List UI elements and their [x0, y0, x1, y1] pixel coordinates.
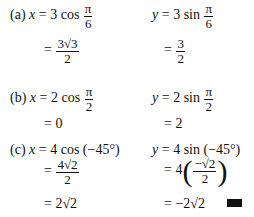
part-a-y-expr: 3 sin	[173, 7, 200, 22]
part-a-x-line: (a) x = 3 cos π6	[10, 2, 93, 30]
part-c-x-step: = 4√22	[44, 158, 80, 186]
part-b-y-line: y = 2 sin π2	[152, 85, 214, 113]
part-a-y-var: y	[152, 7, 158, 22]
part-b-x-line: (b) x = 2 cos π2	[10, 85, 94, 113]
part-c-x-line: (c) x = 4 cos (−45°)	[10, 143, 120, 157]
part-c-label: (c)	[10, 142, 26, 157]
part-a-x-result: = 3√32	[44, 37, 80, 65]
part-c-y-result: = −2√2	[164, 197, 205, 211]
part-a-x-var: x	[29, 7, 35, 22]
part-a-y-result: = 32	[164, 37, 186, 65]
part-b-y-result: = 2	[164, 117, 182, 131]
part-b-x-result: = 0	[44, 117, 62, 131]
part-a-label: (a)	[10, 7, 26, 22]
equals: =	[39, 7, 47, 22]
equals: =	[162, 7, 170, 22]
part-c-y-step: = 4(−√22)	[164, 156, 227, 186]
part-a-x-arg: π6	[84, 2, 93, 30]
part-c-x-result: = 2√2	[44, 197, 77, 211]
end-of-proof-mark	[227, 199, 242, 207]
part-a-y-line: y = 3 sin π6	[152, 2, 214, 30]
part-a-x-expr: 3 cos	[50, 7, 79, 22]
part-b-label: (b)	[10, 90, 26, 105]
part-a-y-arg: π6	[204, 2, 213, 30]
